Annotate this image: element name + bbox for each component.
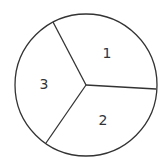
divider-line-top (53, 22, 86, 85)
sector-label-2: 2 (99, 112, 108, 128)
sector-label-3: 3 (40, 76, 49, 92)
sector-label-1: 1 (103, 45, 112, 61)
spinner-diagram: 1 2 3 (0, 0, 165, 167)
divider-line-bottom (46, 85, 86, 143)
divider-line-right (86, 85, 156, 89)
